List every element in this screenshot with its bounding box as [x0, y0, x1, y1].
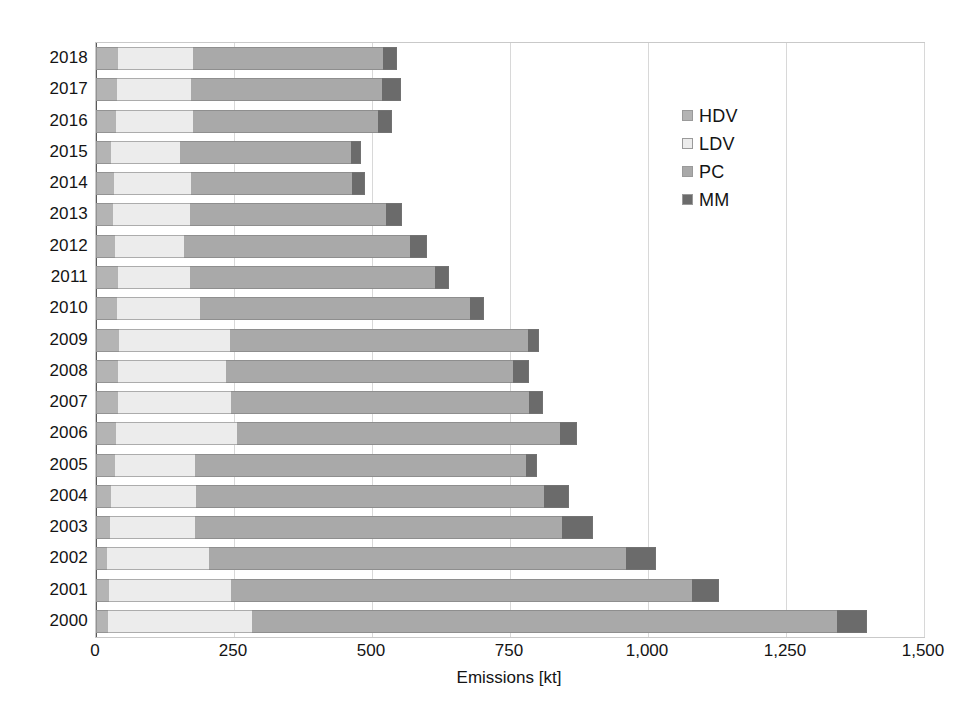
bar-segment-ldv[interactable] [116, 422, 237, 445]
bar-segment-hdv[interactable] [96, 141, 111, 164]
bar-segment-pc[interactable] [252, 610, 837, 633]
bar-row[interactable] [96, 110, 392, 133]
bar-segment-hdv[interactable] [96, 454, 115, 477]
bar-row[interactable] [96, 203, 402, 226]
bar-segment-pc[interactable] [226, 360, 513, 383]
bar-row[interactable] [96, 47, 397, 70]
bar-segment-hdv[interactable] [96, 422, 116, 445]
bar-segment-hdv[interactable] [96, 266, 118, 289]
bar-row[interactable] [96, 485, 569, 508]
bar-segment-hdv[interactable] [96, 610, 108, 633]
legend-item-hdv[interactable]: HDV [682, 104, 802, 127]
bar-row[interactable] [96, 78, 401, 101]
bar-segment-mm[interactable] [544, 485, 569, 508]
bar-segment-hdv[interactable] [96, 329, 119, 352]
bar-segment-hdv[interactable] [96, 297, 117, 320]
bar-segment-ldv[interactable] [113, 203, 190, 226]
bar-segment-ldv[interactable] [111, 485, 197, 508]
bar-segment-mm[interactable] [383, 47, 397, 70]
bar-row[interactable] [96, 266, 449, 289]
bar-segment-hdv[interactable] [96, 516, 110, 539]
bar-segment-pc[interactable] [193, 110, 378, 133]
bar-segment-mm[interactable] [526, 454, 537, 477]
bar-segment-pc[interactable] [231, 579, 692, 602]
bar-segment-pc[interactable] [230, 329, 528, 352]
bar-segment-hdv[interactable] [96, 78, 117, 101]
bar-segment-mm[interactable] [529, 391, 543, 414]
bar-row[interactable] [96, 422, 577, 445]
bar-segment-mm[interactable] [470, 297, 484, 320]
bar-segment-pc[interactable] [191, 78, 381, 101]
bar-row[interactable] [96, 141, 361, 164]
bar-segment-mm[interactable] [562, 516, 592, 539]
bar-segment-pc[interactable] [237, 422, 560, 445]
bar-segment-pc[interactable] [190, 203, 386, 226]
bar-segment-ldv[interactable] [118, 47, 193, 70]
bar-segment-hdv[interactable] [96, 172, 114, 195]
bar-segment-mm[interactable] [626, 547, 656, 570]
bar-segment-mm[interactable] [528, 329, 539, 352]
bar-segment-ldv[interactable] [115, 235, 184, 258]
legend-item-pc[interactable]: PC [682, 160, 802, 183]
bar-segment-mm[interactable] [410, 235, 427, 258]
bar-segment-pc[interactable] [196, 485, 544, 508]
bar-segment-hdv[interactable] [96, 547, 107, 570]
bar-segment-ldv[interactable] [117, 297, 200, 320]
bar-row[interactable] [96, 610, 867, 633]
bar-segment-mm[interactable] [352, 172, 366, 195]
bar-segment-pc[interactable] [209, 547, 626, 570]
bar-segment-pc[interactable] [195, 454, 526, 477]
bar-segment-ldv[interactable] [107, 547, 209, 570]
bar-segment-hdv[interactable] [96, 235, 115, 258]
bar-row[interactable] [96, 329, 539, 352]
bar-segment-hdv[interactable] [96, 485, 111, 508]
bar-segment-ldv[interactable] [115, 454, 195, 477]
bar-segment-pc[interactable] [193, 47, 383, 70]
bar-segment-pc[interactable] [195, 516, 562, 539]
bar-segment-ldv[interactable] [119, 329, 229, 352]
bar-segment-ldv[interactable] [118, 266, 190, 289]
bar-segment-ldv[interactable] [118, 360, 226, 383]
bar-segment-pc[interactable] [184, 235, 410, 258]
bar-segment-mm[interactable] [837, 610, 867, 633]
bar-segment-pc[interactable] [191, 172, 351, 195]
bar-row[interactable] [96, 297, 484, 320]
bar-segment-hdv[interactable] [96, 579, 109, 602]
bar-segment-hdv[interactable] [96, 110, 116, 133]
bar-segment-pc[interactable] [180, 141, 351, 164]
bar-row[interactable] [96, 360, 529, 383]
bar-segment-mm[interactable] [513, 360, 530, 383]
bar-row[interactable] [96, 579, 719, 602]
bar-segment-ldv[interactable] [118, 391, 231, 414]
bar-segment-pc[interactable] [190, 266, 436, 289]
bar-segment-hdv[interactable] [96, 360, 118, 383]
bar-segment-ldv[interactable] [110, 516, 196, 539]
bar-row[interactable] [96, 391, 543, 414]
bar-segment-pc[interactable] [231, 391, 529, 414]
bar-segment-ldv[interactable] [111, 141, 180, 164]
bar-segment-hdv[interactable] [96, 391, 118, 414]
bar-segment-ldv[interactable] [109, 579, 230, 602]
bar-segment-mm[interactable] [692, 579, 720, 602]
bar-segment-mm[interactable] [560, 422, 577, 445]
bar-segment-hdv[interactable] [96, 203, 113, 226]
bar-segment-mm[interactable] [351, 141, 361, 164]
bar-segment-ldv[interactable] [117, 78, 192, 101]
legend-item-ldv[interactable]: LDV [682, 132, 802, 155]
bar-segment-ldv[interactable] [116, 110, 193, 133]
bar-segment-mm[interactable] [386, 203, 403, 226]
bar-row[interactable] [96, 235, 427, 258]
bar-segment-hdv[interactable] [96, 47, 118, 70]
legend-item-mm[interactable]: MM [682, 188, 802, 211]
bar-segment-mm[interactable] [435, 266, 449, 289]
bar-row[interactable] [96, 516, 593, 539]
bar-segment-ldv[interactable] [114, 172, 191, 195]
bar-row[interactable] [96, 547, 656, 570]
bar-segment-ldv[interactable] [108, 610, 252, 633]
legend-label: HDV [699, 106, 738, 126]
bar-row[interactable] [96, 172, 365, 195]
bar-segment-mm[interactable] [382, 78, 401, 101]
bar-row[interactable] [96, 454, 537, 477]
bar-segment-pc[interactable] [200, 297, 470, 320]
bar-segment-mm[interactable] [378, 110, 392, 133]
